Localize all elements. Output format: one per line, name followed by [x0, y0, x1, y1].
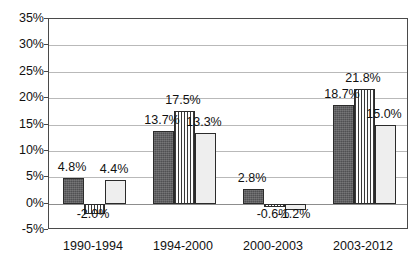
bar-data-label: 4.8%	[50, 161, 94, 174]
bar-data-label: -1.2%	[272, 208, 316, 221]
bar	[195, 133, 216, 203]
bar	[243, 189, 264, 204]
bar-data-label: 17.5%	[161, 94, 205, 107]
y-axis-tick-label: 5%	[4, 170, 44, 183]
x-axis-category-label: 1994-2000	[138, 240, 228, 253]
bar-data-label: 4.4%	[92, 163, 136, 176]
y-axis: 35%30%25%20%15%10%5%0%-5%	[0, 0, 44, 270]
y-axis-tick-label: 10%	[4, 144, 44, 157]
y-axis-tick-label: 20%	[4, 91, 44, 104]
gridline	[49, 45, 407, 46]
plot-area	[48, 18, 408, 229]
bar-data-label: 15.0%	[362, 108, 406, 121]
y-axis-tick-label: 0%	[4, 197, 44, 210]
bar-data-label: 21.8%	[341, 72, 385, 85]
y-axis-tick-label: 30%	[4, 38, 44, 51]
y-axis-tick-label: 35%	[4, 12, 44, 25]
bar	[333, 105, 354, 204]
bar-data-label: 13.3%	[182, 116, 226, 129]
y-axis-tick-label: 15%	[4, 118, 44, 131]
bar	[63, 178, 84, 203]
bar-chart: 35%30%25%20%15%10%5%0%-5% 1990-19941994-…	[0, 0, 417, 270]
x-axis-category-label: 2003-2012	[318, 240, 408, 253]
bar-data-label: -2.0%	[71, 208, 115, 221]
bar-data-label: 13.7%	[140, 114, 184, 127]
x-axis-category-label: 1990-1994	[48, 240, 138, 253]
bar	[354, 89, 375, 204]
bar-data-label: 18.7%	[320, 88, 364, 101]
y-axis-tick-mark	[44, 229, 48, 230]
y-axis-tick-label: 25%	[4, 65, 44, 78]
bar	[153, 131, 174, 203]
bar	[375, 125, 396, 204]
bar	[105, 180, 126, 203]
bar-data-label: 2.8%	[230, 172, 274, 185]
y-axis-tick-label: -5%	[4, 223, 44, 236]
x-axis-category-label: 2000-2003	[228, 240, 318, 253]
